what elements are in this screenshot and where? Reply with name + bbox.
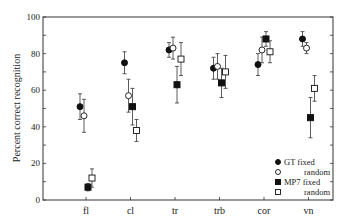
y-axis-label: Percent correct recognition — [11, 54, 22, 162]
y-tick-label: 80 — [31, 49, 41, 59]
x-tick-label: tr — [172, 205, 179, 216]
legend-label: random — [304, 187, 330, 197]
x-tick-label: trb — [214, 205, 225, 216]
series-0 — [77, 32, 306, 120]
y-tick-label: 100 — [27, 12, 41, 22]
legend-label: MP7 fixed — [284, 177, 321, 187]
x-tick-label: fl — [83, 205, 89, 216]
y-tick-label: 0 — [36, 195, 41, 205]
legend-label: GT fixed — [284, 157, 316, 167]
series-2 — [85, 32, 314, 191]
data-points — [77, 32, 318, 191]
x-tick-label: cl — [127, 205, 134, 216]
legend: GT fixedrandomMP7 fixedrandom — [276, 157, 331, 197]
series-1 — [81, 37, 310, 132]
axes-box — [43, 17, 333, 200]
x-tick-label: vn — [304, 205, 314, 216]
chart: 020406080100 flcltrtrbcorvn Percent corr… — [0, 0, 348, 222]
y-tick-label: 60 — [31, 85, 41, 95]
plot-frame — [43, 17, 333, 200]
y-tick-label: 20 — [31, 158, 41, 168]
x-tick-label: cor — [258, 205, 271, 216]
legend-label: random — [304, 167, 330, 177]
y-tick-label: 40 — [31, 122, 41, 132]
